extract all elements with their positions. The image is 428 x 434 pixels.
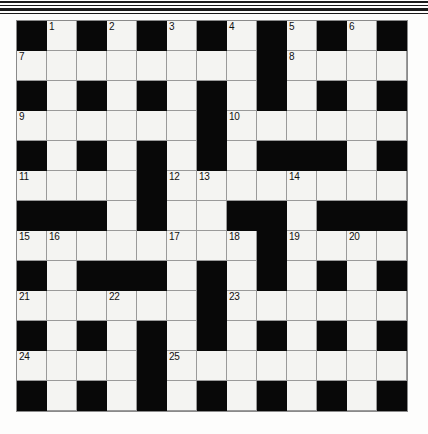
grid-cell-white[interactable] — [137, 291, 167, 321]
grid-cell-white[interactable] — [197, 201, 227, 231]
grid-cell-white[interactable] — [47, 261, 77, 291]
grid-cell-white[interactable] — [287, 351, 317, 381]
grid-cell-white[interactable] — [77, 351, 107, 381]
grid-cell-white[interactable] — [257, 291, 287, 321]
grid-cell-white[interactable]: 10 — [227, 111, 257, 141]
grid-cell-white[interactable]: 7 — [17, 51, 47, 81]
grid-cell-white[interactable] — [377, 51, 407, 81]
grid-cell-white[interactable] — [287, 201, 317, 231]
grid-cell-white[interactable] — [107, 201, 137, 231]
grid-cell-white[interactable] — [107, 351, 137, 381]
grid-cell-white[interactable] — [347, 51, 377, 81]
grid-cell-white[interactable]: 15 — [17, 231, 47, 261]
grid-cell-white[interactable]: 2 — [107, 21, 137, 51]
grid-cell-white[interactable] — [227, 81, 257, 111]
grid-cell-white[interactable]: 23 — [227, 291, 257, 321]
grid-cell-white[interactable] — [137, 51, 167, 81]
grid-cell-white[interactable] — [47, 321, 77, 351]
grid-cell-white[interactable]: 16 — [47, 231, 77, 261]
grid-cell-white[interactable] — [317, 111, 347, 141]
grid-cell-white[interactable] — [287, 321, 317, 351]
grid-cell-white[interactable] — [347, 351, 377, 381]
grid-cell-white[interactable] — [47, 381, 77, 411]
crossword-grid[interactable]: 1234567891011121314151617181920212223242… — [16, 20, 408, 412]
grid-cell-white[interactable] — [137, 111, 167, 141]
grid-cell-white[interactable] — [77, 231, 107, 261]
grid-cell-white[interactable] — [377, 291, 407, 321]
grid-cell-white[interactable] — [167, 141, 197, 171]
grid-cell-white[interactable] — [47, 81, 77, 111]
grid-cell-white[interactable] — [287, 111, 317, 141]
grid-cell-white[interactable] — [317, 231, 347, 261]
grid-cell-white[interactable] — [107, 141, 137, 171]
grid-cell-white[interactable] — [167, 261, 197, 291]
grid-cell-white[interactable] — [47, 141, 77, 171]
grid-cell-white[interactable] — [257, 111, 287, 141]
grid-cell-white[interactable]: 17 — [167, 231, 197, 261]
grid-cell-white[interactable] — [377, 111, 407, 141]
grid-cell-white[interactable] — [347, 81, 377, 111]
grid-cell-white[interactable] — [77, 171, 107, 201]
grid-cell-white[interactable] — [287, 291, 317, 321]
grid-cell-white[interactable] — [167, 81, 197, 111]
grid-cell-white[interactable] — [377, 171, 407, 201]
grid-cell-white[interactable] — [227, 51, 257, 81]
grid-cell-white[interactable] — [257, 351, 287, 381]
grid-cell-white[interactable] — [167, 111, 197, 141]
grid-cell-white[interactable]: 1 — [47, 21, 77, 51]
grid-cell-white[interactable] — [347, 381, 377, 411]
grid-cell-white[interactable]: 20 — [347, 231, 377, 261]
grid-cell-white[interactable] — [257, 171, 287, 201]
grid-cell-white[interactable] — [347, 111, 377, 141]
grid-cell-white[interactable] — [107, 111, 137, 141]
grid-cell-white[interactable]: 21 — [17, 291, 47, 321]
grid-cell-white[interactable] — [77, 51, 107, 81]
grid-cell-white[interactable] — [347, 171, 377, 201]
grid-cell-white[interactable] — [107, 321, 137, 351]
grid-cell-white[interactable] — [347, 291, 377, 321]
grid-cell-white[interactable]: 5 — [287, 21, 317, 51]
grid-cell-white[interactable]: 14 — [287, 171, 317, 201]
grid-cell-white[interactable] — [227, 351, 257, 381]
grid-cell-white[interactable] — [347, 261, 377, 291]
grid-cell-white[interactable] — [107, 231, 137, 261]
grid-cell-white[interactable] — [107, 81, 137, 111]
grid-cell-white[interactable] — [167, 321, 197, 351]
grid-cell-white[interactable] — [227, 171, 257, 201]
grid-cell-white[interactable] — [317, 351, 347, 381]
grid-cell-white[interactable]: 12 — [167, 171, 197, 201]
grid-cell-white[interactable]: 6 — [347, 21, 377, 51]
grid-cell-white[interactable]: 22 — [107, 291, 137, 321]
grid-cell-white[interactable] — [137, 231, 167, 261]
grid-cell-white[interactable] — [197, 231, 227, 261]
grid-cell-white[interactable]: 4 — [227, 21, 257, 51]
grid-cell-white[interactable] — [197, 351, 227, 381]
grid-cell-white[interactable] — [377, 231, 407, 261]
grid-cell-white[interactable] — [287, 81, 317, 111]
grid-cell-white[interactable] — [47, 51, 77, 81]
grid-cell-white[interactable] — [167, 291, 197, 321]
grid-cell-white[interactable] — [47, 111, 77, 141]
grid-cell-white[interactable] — [317, 291, 347, 321]
grid-cell-white[interactable]: 18 — [227, 231, 257, 261]
grid-cell-white[interactable]: 13 — [197, 171, 227, 201]
grid-cell-white[interactable] — [167, 51, 197, 81]
grid-cell-white[interactable] — [107, 51, 137, 81]
grid-cell-white[interactable] — [227, 261, 257, 291]
grid-cell-white[interactable] — [287, 261, 317, 291]
grid-cell-white[interactable] — [227, 141, 257, 171]
grid-cell-white[interactable] — [347, 141, 377, 171]
grid-cell-white[interactable] — [47, 171, 77, 201]
grid-cell-white[interactable] — [107, 381, 137, 411]
grid-cell-white[interactable] — [107, 171, 137, 201]
grid-cell-white[interactable] — [167, 201, 197, 231]
grid-cell-white[interactable]: 19 — [287, 231, 317, 261]
grid-cell-white[interactable] — [377, 351, 407, 381]
grid-cell-white[interactable] — [77, 291, 107, 321]
grid-cell-white[interactable]: 25 — [167, 351, 197, 381]
grid-cell-white[interactable] — [47, 351, 77, 381]
grid-cell-white[interactable] — [197, 51, 227, 81]
grid-cell-white[interactable] — [47, 291, 77, 321]
grid-cell-white[interactable] — [317, 171, 347, 201]
grid-cell-white[interactable] — [347, 321, 377, 351]
